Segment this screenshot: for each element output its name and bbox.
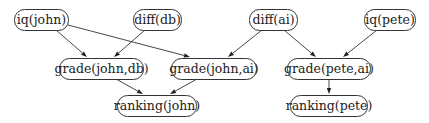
node-label: diff(db) <box>134 12 181 27</box>
node-label: grade(john,ai) <box>169 61 259 76</box>
node-grade-pete-ai: grade(pete,ai) <box>284 59 374 80</box>
edge-grade-john-ai-to-ranking-john <box>170 79 197 94</box>
node-grade-john-ai: grade(john,ai) <box>169 59 259 80</box>
edge-line <box>56 30 82 53</box>
node-label: ranking(john) <box>114 98 200 113</box>
node-iq-pete: iq(pete) <box>365 10 416 31</box>
arrowhead-icon <box>170 89 176 94</box>
edge-line <box>348 30 377 53</box>
edge-diff-db-to-grade-john-db <box>114 30 145 57</box>
edge-line <box>284 30 311 53</box>
node-label: grade(john,db) <box>54 61 148 76</box>
arrowhead-icon <box>327 88 331 94</box>
node-diff-ai: diff(ai) <box>250 10 298 31</box>
arrowhead-icon <box>184 53 190 57</box>
edge-line <box>116 79 138 91</box>
edge-diff-ai-to-grade-john-ai <box>228 30 262 57</box>
edge-line <box>119 30 145 53</box>
node-diff-db: diff(db) <box>134 10 182 31</box>
node-label: iq(john) <box>17 12 66 27</box>
node-label: grade(pete,ai) <box>284 61 374 76</box>
node-ranking-pete: ranking(pete) <box>286 96 373 117</box>
node-iq-john: iq(john) <box>15 10 69 31</box>
node-label: iq(pete) <box>365 12 415 27</box>
edge-line <box>233 30 262 53</box>
node-label: diff(ai) <box>252 12 294 27</box>
edge-grade-john-db-to-ranking-john <box>116 79 143 94</box>
edge-line <box>175 79 197 91</box>
edge-iq-pete-to-grade-pete-ai <box>343 30 377 57</box>
arrowhead-icon <box>137 89 143 94</box>
edge-diff-ai-to-grade-pete-ai <box>284 30 316 57</box>
edge-iq-john-to-grade-john-db <box>56 30 87 57</box>
node-label: ranking(pete) <box>286 98 373 113</box>
bayesian-network-diagram: iq(john)diff(db)diff(ai)iq(pete)grade(jo… <box>0 0 429 123</box>
node-ranking-john: ranking(john) <box>114 96 200 117</box>
edge-grade-pete-ai-to-ranking-pete <box>327 79 331 94</box>
nodes: iq(john)diff(db)diff(ai)iq(pete)grade(jo… <box>15 10 416 117</box>
node-grade-john-db: grade(john,db) <box>54 59 148 80</box>
